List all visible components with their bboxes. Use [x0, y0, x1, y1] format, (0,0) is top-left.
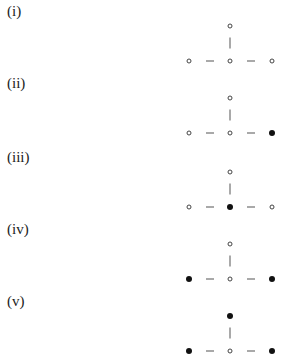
horizontal-edge [206, 133, 214, 134]
filled-circle-icon [227, 204, 233, 210]
open-circle-icon [228, 242, 233, 247]
open-circle-icon [228, 96, 233, 101]
open-circle-icon [228, 131, 233, 136]
vertical-edge [230, 184, 231, 195]
horizontal-edge [247, 207, 255, 208]
panel-5: (v) [0, 290, 281, 360]
open-circle-icon [187, 131, 192, 136]
open-circle-icon [228, 24, 233, 29]
open-circle-icon [228, 59, 233, 64]
panel-3: (iii) [0, 146, 281, 218]
vertical-edge [230, 110, 231, 121]
open-circle-icon [228, 349, 233, 354]
open-circle-icon [270, 59, 275, 64]
horizontal-edge [247, 351, 255, 352]
filled-circle-icon [186, 348, 192, 354]
filled-circle-icon [269, 276, 275, 282]
filled-circle-icon [269, 130, 275, 136]
open-circle-icon [187, 59, 192, 64]
panel-label: (i) [7, 3, 21, 19]
open-circle-icon [270, 205, 275, 210]
horizontal-edge [247, 133, 255, 134]
open-circle-icon [187, 205, 192, 210]
filled-circle-icon [186, 276, 192, 282]
vertical-edge [230, 256, 231, 267]
open-circle-icon [228, 170, 233, 175]
horizontal-edge [206, 279, 214, 280]
filled-circle-icon [227, 313, 233, 319]
horizontal-edge [206, 61, 214, 62]
filled-circle-icon [269, 348, 275, 354]
horizontal-edge [247, 61, 255, 62]
horizontal-edge [247, 279, 255, 280]
panel-1: (i) [0, 0, 281, 72]
vertical-edge [230, 38, 231, 49]
panel-label: (iv) [7, 221, 29, 237]
horizontal-edge [206, 351, 214, 352]
horizontal-edge [206, 207, 214, 208]
panel-label: (ii) [7, 75, 25, 91]
panel-label: (iii) [7, 149, 30, 165]
panel-2: (ii) [0, 72, 281, 144]
panel-4: (iv) [0, 218, 281, 290]
open-circle-icon [228, 277, 233, 282]
vertical-edge [230, 328, 231, 339]
panel-label: (v) [7, 293, 25, 309]
